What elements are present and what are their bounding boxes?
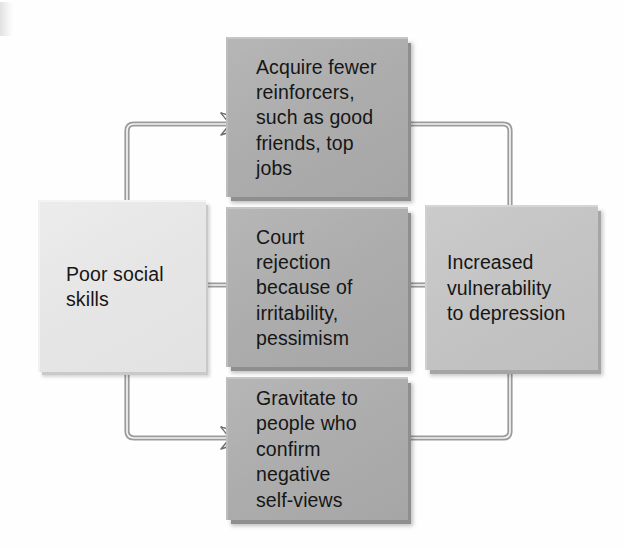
node-increased-vulnerability[interactable]: Increased vulnerability to depression [425, 205, 598, 370]
diagram-canvas: Poor social skills Acquire fewer reinfor… [0, 0, 624, 548]
node-gravitate-to-people-label: Gravitate to people who confirm negative… [256, 386, 358, 513]
node-poor-social-skills-label: Poor social skills [66, 262, 164, 313]
node-increased-vulnerability-label: Increased vulnerability to depression [447, 250, 565, 326]
node-acquire-fewer-reinforcers-label: Acquire fewer reinforcers, such as good … [256, 55, 377, 182]
node-court-rejection-label: Court rejection because of irritability,… [256, 225, 352, 352]
node-acquire-fewer-reinforcers[interactable]: Acquire fewer reinforcers, such as good … [226, 37, 408, 197]
node-poor-social-skills[interactable]: Poor social skills [38, 200, 206, 372]
node-gravitate-to-people[interactable]: Gravitate to people who confirm negative… [226, 377, 408, 520]
node-court-rejection[interactable]: Court rejection because of irritability,… [226, 207, 408, 367]
